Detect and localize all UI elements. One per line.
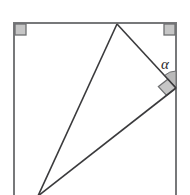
bounding-rectangle [14,23,176,195]
angle-alpha-label: α [161,56,170,72]
right-angle-square-top-left [15,24,26,35]
triangle-edge-right-to-bottom [38,88,176,195]
inscribed-triangle [38,24,176,195]
rectangle-outline [14,23,176,195]
geometry-figure: α [0,0,190,195]
triangle-edge-bottom-to-apex [38,24,117,195]
right-angle-top-right [164,24,175,35]
geometry-canvas: α [0,0,190,195]
right-angle-square-top-right [164,24,175,35]
right-angle-top-left [15,24,26,35]
